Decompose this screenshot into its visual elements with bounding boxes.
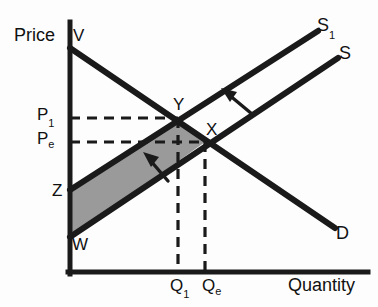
price-tick-p1-text: P bbox=[37, 105, 48, 124]
quantity-tick-q1: Q1 bbox=[170, 277, 189, 297]
supply-curve-shifted bbox=[70, 31, 318, 190]
supply-demand-figure: Price Quantity V Z W Y X S1 S D P1 Pe Q1… bbox=[0, 0, 378, 307]
curve-label-s: S bbox=[339, 44, 351, 62]
price-tick-pe-subscript: e bbox=[48, 138, 54, 150]
quantity-tick-qe-text: Q bbox=[202, 276, 215, 295]
curve-label-s1: S1 bbox=[317, 16, 335, 38]
price-tick-p1: P1 bbox=[37, 106, 54, 126]
point-label-x: X bbox=[206, 121, 217, 138]
point-label-y: Y bbox=[173, 96, 184, 113]
point-label-w: W bbox=[72, 236, 88, 253]
quantity-tick-q1-subscript: 1 bbox=[183, 288, 189, 300]
x-axis-label: Quantity bbox=[288, 276, 355, 294]
y-axis-label: Price bbox=[14, 26, 55, 44]
point-label-z: Z bbox=[52, 182, 62, 199]
curve-label-d: D bbox=[336, 224, 349, 242]
diagram-canvas bbox=[0, 0, 378, 307]
quantity-tick-qe: Qe bbox=[202, 277, 221, 294]
price-tick-pe-text: P bbox=[37, 129, 48, 148]
curve-label-s1-subscript: 1 bbox=[329, 29, 335, 41]
point-label-v: V bbox=[73, 27, 84, 44]
quantity-tick-qe-subscript: e bbox=[215, 285, 221, 297]
quantity-tick-q1-text: Q bbox=[170, 276, 183, 295]
shift-arrow-upper-icon bbox=[221, 88, 252, 114]
curve-label-s1-text: S bbox=[317, 15, 329, 35]
price-tick-p1-subscript: 1 bbox=[48, 117, 54, 129]
price-tick-pe: Pe bbox=[37, 130, 54, 147]
